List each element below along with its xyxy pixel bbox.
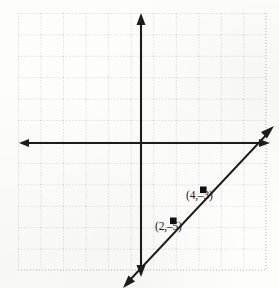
graph-page: (4,–3) (2,–5): [0, 0, 279, 288]
point-label-2-neg5: (2,–5): [155, 220, 182, 232]
graph-svg: [18, 13, 266, 270]
coordinate-plane: [18, 13, 266, 270]
point-label-4-neg3: (4,–3): [186, 189, 213, 201]
